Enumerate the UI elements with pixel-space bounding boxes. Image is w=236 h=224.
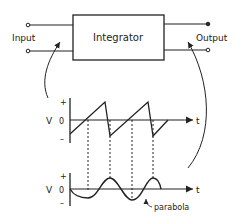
bottom-y-label: V	[46, 185, 53, 195]
bottom-x-label: t	[196, 185, 200, 195]
input-arrow	[45, 42, 60, 98]
integrator-diagram: Integrator Input Output + V 0 – t	[0, 0, 236, 224]
parabola-label: parabola	[154, 203, 189, 212]
top-minus: –	[60, 135, 64, 144]
top-y-label: V	[46, 116, 53, 126]
bottom-zero: 0	[59, 186, 64, 195]
output-arrow	[188, 42, 206, 168]
output-label: Output	[196, 33, 228, 43]
bottom-minus: –	[60, 199, 64, 208]
top-plus: +	[60, 98, 67, 107]
input-label: Input	[12, 33, 36, 43]
top-zero: 0	[59, 117, 64, 126]
bottom-plus: +	[60, 172, 67, 181]
parabola-pointer	[146, 199, 152, 207]
integrator-label: Integrator	[93, 32, 144, 43]
top-x-label: t	[196, 116, 200, 126]
sawtooth-waveform	[70, 102, 168, 136]
